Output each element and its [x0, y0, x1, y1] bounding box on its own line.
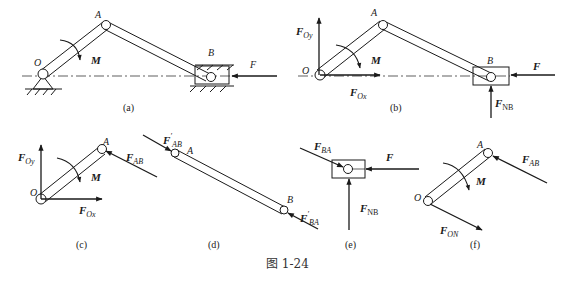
- joint-B: [344, 165, 353, 174]
- caption-e: (e): [345, 240, 356, 250]
- moment-label-M: M: [91, 172, 101, 183]
- force-label-FON: FON: [440, 225, 458, 239]
- force-label-FOy: FOy: [18, 152, 35, 166]
- caption-f: (f): [470, 240, 480, 250]
- point-label-O: O: [30, 188, 37, 198]
- moment-M-arrow: [60, 40, 80, 60]
- rod-AB: [104, 22, 210, 81]
- force-label-FAB: FAB: [522, 154, 539, 168]
- force-label-F: F: [386, 152, 393, 163]
- force-label-F: F: [533, 61, 540, 72]
- crank-OA: [317, 21, 385, 78]
- point-label-A: A: [187, 146, 193, 156]
- force-label-FAB-prime: F′AB: [163, 133, 182, 149]
- rod-AB: [174, 150, 285, 214]
- subfigure-a: [22, 21, 277, 96]
- joint-A: [102, 21, 111, 30]
- joint-B: [207, 73, 216, 82]
- point-label-A: A: [371, 8, 377, 18]
- force-label-FOy: FOy: [296, 26, 313, 40]
- point-label-A: A: [103, 137, 109, 147]
- force-label-FBA-prime: F′BA: [300, 211, 319, 227]
- moment-label-M: M: [91, 55, 101, 66]
- point-label-O: O: [34, 58, 41, 68]
- point-label-O: O: [302, 66, 309, 76]
- joint-A: [171, 149, 179, 157]
- joint-O: [38, 69, 48, 79]
- force-label-FOx: FOx: [79, 205, 96, 219]
- force-label-FBA: FBA: [314, 141, 331, 155]
- force-label-F: F: [250, 60, 256, 70]
- moment-label-M: M: [476, 176, 486, 187]
- force-label-FOx: FOx: [350, 87, 367, 101]
- point-label-A: A: [477, 140, 483, 150]
- subfigure-b: [298, 18, 555, 118]
- point-label-B: B: [208, 48, 214, 58]
- caption-a: (a): [123, 103, 134, 113]
- point-label-A: A: [95, 10, 101, 20]
- figure-caption: 图 1-24: [266, 258, 309, 270]
- joint-B: [280, 206, 288, 214]
- joint-B: [487, 73, 496, 82]
- point-label-B: B: [487, 56, 493, 66]
- caption-b: (b): [390, 103, 402, 113]
- force-label-FNB: FNB: [360, 203, 378, 217]
- rod-AB: [382, 22, 493, 81]
- moment-label-M: M: [371, 55, 381, 66]
- caption-c: (c): [76, 240, 87, 250]
- point-label-O: O: [414, 193, 421, 203]
- joint-A: [484, 149, 493, 158]
- joint-A: [379, 21, 388, 30]
- subfigure-d: [143, 135, 318, 229]
- caption-d: (d): [208, 240, 220, 250]
- crank-OA: [40, 22, 108, 78]
- point-label-B: B: [287, 195, 293, 205]
- force-label-FAB: FAB: [126, 152, 143, 166]
- force-label-FNB: FNB: [495, 98, 513, 112]
